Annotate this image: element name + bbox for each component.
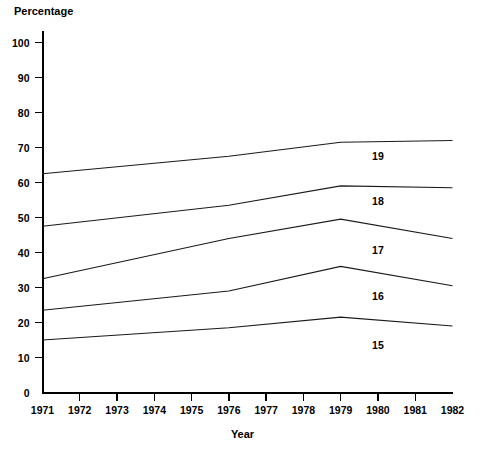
x-tick-label: 1972 (68, 404, 92, 416)
series-label-18: 18 (372, 195, 384, 207)
x-axis-title: Year (0, 428, 483, 440)
y-tick-label: 40 (18, 247, 30, 259)
series-label-17: 17 (372, 244, 384, 256)
series-label-19: 19 (372, 150, 384, 162)
y-tick-label: 70 (18, 142, 30, 154)
y-tick-label: 20 (18, 317, 30, 329)
y-tick-label: 0 (24, 387, 30, 399)
x-tick-label: 1981 (404, 404, 428, 416)
series-line-18 (43, 186, 453, 226)
axis-lines (43, 31, 453, 393)
x-tick-label: 1979 (329, 404, 353, 416)
series-label-16: 16 (372, 290, 384, 302)
x-tick-label: 1978 (292, 404, 316, 416)
x-tick-label: 1973 (105, 404, 129, 416)
x-tick-label: 1976 (217, 404, 241, 416)
x-tick-label: 1974 (143, 404, 167, 416)
series-line-16 (43, 267, 453, 311)
series-line-19 (43, 141, 453, 174)
data-series-group (43, 141, 453, 341)
y-tick-label: 50 (18, 212, 30, 224)
y-tick-label: 100 (12, 37, 30, 49)
series-line-15 (43, 317, 453, 340)
x-axis-ticks: 1971197219731974197519761977197819791980… (31, 393, 465, 416)
y-tick-label: 60 (18, 177, 30, 189)
y-tick-label: 80 (18, 107, 30, 119)
series-line-17 (43, 219, 453, 279)
plot-area: 0102030405060708090100 19711972197319741… (0, 0, 483, 449)
y-axis-ticks: 0102030405060708090100 (12, 37, 43, 399)
y-tick-label: 10 (18, 352, 30, 364)
x-tick-label: 1982 (441, 404, 465, 416)
line-chart: Percentage 0102030405060708090100 197119… (0, 0, 483, 449)
series-label-15: 15 (372, 339, 384, 351)
y-tick-label: 90 (18, 72, 30, 84)
x-tick-label: 1971 (31, 404, 55, 416)
x-tick-label: 1980 (366, 404, 390, 416)
y-tick-label: 30 (18, 282, 30, 294)
x-tick-label: 1975 (180, 404, 204, 416)
x-tick-label: 1977 (254, 404, 278, 416)
